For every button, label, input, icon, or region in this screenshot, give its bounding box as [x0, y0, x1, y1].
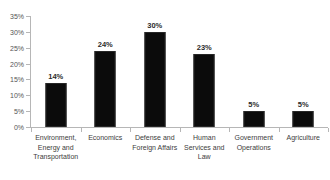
y-axis-tick-label: 25% [10, 44, 24, 51]
y-axis-tick-label: 5% [14, 108, 24, 115]
y-axis-tick-label: 20% [10, 60, 24, 67]
x-axis-tick-mark [229, 128, 230, 132]
x-axis-category-label: Defense and Foreign Affairs [130, 133, 180, 152]
bar-group: 5% [279, 16, 329, 127]
x-axis-tick-mark [328, 128, 329, 132]
bar-value-label: 5% [298, 101, 309, 109]
y-axis-tick-mark [26, 16, 30, 17]
y-axis-tick-mark [26, 127, 30, 128]
bar[interactable] [293, 111, 314, 127]
bar-group: 30% [130, 16, 180, 127]
x-axis-tick-mark [130, 128, 131, 132]
x-axis-category-label: Human Services and Law [180, 133, 230, 162]
bar-chart: 35%30%25%20%15%10%5%0% 14%24%30%23%5%5% … [0, 0, 330, 180]
bar-value-label: 30% [147, 22, 162, 30]
plot-area: 14%24%30%23%5%5% [31, 16, 328, 127]
bar-group: 24% [81, 16, 131, 127]
y-axis-tick-mark [26, 32, 30, 33]
bar-value-label: 23% [197, 44, 212, 52]
x-axis-tick-mark [180, 128, 181, 132]
bar-group: 5% [229, 16, 279, 127]
y-axis-tick-mark [26, 48, 30, 49]
x-axis-category-label: Economics [81, 133, 131, 143]
x-axis-tick-mark [279, 128, 280, 132]
x-axis-category-label: Government Operations [229, 133, 279, 152]
y-axis-tick-mark [26, 79, 30, 80]
bar-group: 14% [31, 16, 81, 127]
x-axis-tick-mark [31, 128, 32, 132]
bar-value-label: 5% [248, 101, 259, 109]
y-axis-tick-label: 15% [10, 76, 24, 83]
x-axis-category-label: Environment, Energy and Transportation [31, 133, 81, 162]
y-axis-tick-label: 35% [10, 13, 24, 20]
y-axis-tick-label: 0% [14, 124, 24, 131]
bar-group: 23% [180, 16, 230, 127]
bar[interactable] [243, 111, 264, 127]
x-axis-category-label: Agriculture [279, 133, 329, 143]
x-axis-category-labels: Environment, Energy and TransportationEc… [31, 133, 328, 180]
y-axis-tick-mark [26, 95, 30, 96]
bar-value-label: 14% [48, 73, 63, 81]
y-axis-tick-label: 30% [10, 28, 24, 35]
bar[interactable] [95, 51, 116, 127]
y-axis: 35%30%25%20%15%10%5%0% [0, 0, 28, 180]
x-axis-tick-mark [81, 128, 82, 132]
y-axis-tick-mark [26, 111, 30, 112]
y-axis-tick-mark [26, 64, 30, 65]
bar-value-label: 24% [98, 41, 113, 49]
bar[interactable] [45, 83, 66, 127]
y-axis-tick-label: 10% [10, 92, 24, 99]
bar[interactable] [194, 54, 215, 127]
bar[interactable] [144, 32, 165, 127]
